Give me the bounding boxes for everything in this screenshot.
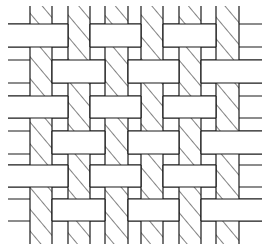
weft-over-segment	[201, 131, 262, 154]
weft-over-segment	[128, 60, 179, 83]
basket-weave-diagram	[0, 0, 267, 252]
weft-over-segment	[201, 60, 262, 83]
weft-over-segment	[128, 131, 179, 154]
weft-over-segment	[8, 24, 68, 47]
weft-over-segment	[128, 199, 179, 221]
weft-over-segment	[163, 165, 216, 187]
weft-over-segment	[201, 199, 262, 221]
weft-over-segment	[52, 60, 105, 83]
weft-over-segment	[52, 199, 105, 221]
weft-over-segment	[52, 131, 105, 154]
weft-over-segment	[90, 96, 141, 118]
weft-over-segment	[90, 165, 141, 187]
weft-over-segment	[90, 24, 141, 47]
weft-over-segment	[163, 96, 216, 118]
weft-over-segment	[8, 165, 68, 187]
weft-over-segment	[8, 96, 68, 118]
weft-over-segment	[163, 24, 216, 47]
